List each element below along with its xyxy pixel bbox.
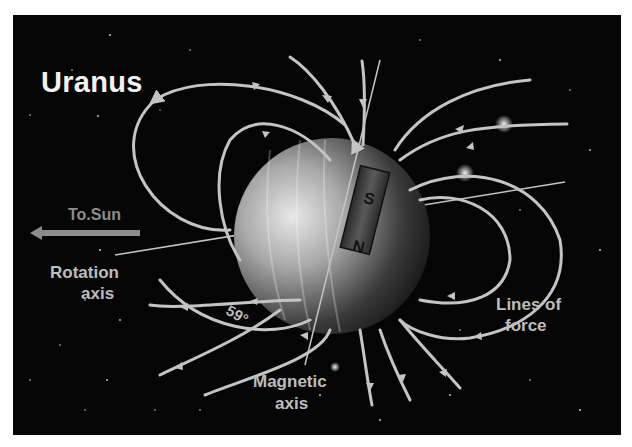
bright-star <box>330 362 340 372</box>
to-sun-label: To.Sun <box>68 206 121 224</box>
magnetic-axis-label-line2: axis <box>275 394 308 413</box>
uranus-magnetic-field-diagram: Uranus To.Sun Rotation axis Magnetic axi… <box>13 15 621 435</box>
bright-star <box>456 164 474 182</box>
rotation-axis-label-line2: axis <box>81 284 114 303</box>
rotation-axis-label-line1: Rotation <box>50 263 119 282</box>
magnetic-axis-label-line1: Magnetic <box>253 372 327 391</box>
lines-of-force-label-line2: force <box>505 316 547 335</box>
bright-star <box>495 115 513 133</box>
to-sun-arrow-icon <box>30 226 145 240</box>
uranus-planet <box>234 138 430 334</box>
diagram-title: Uranus <box>41 66 143 99</box>
lines-of-force-label-line1: Lines of <box>496 295 561 314</box>
